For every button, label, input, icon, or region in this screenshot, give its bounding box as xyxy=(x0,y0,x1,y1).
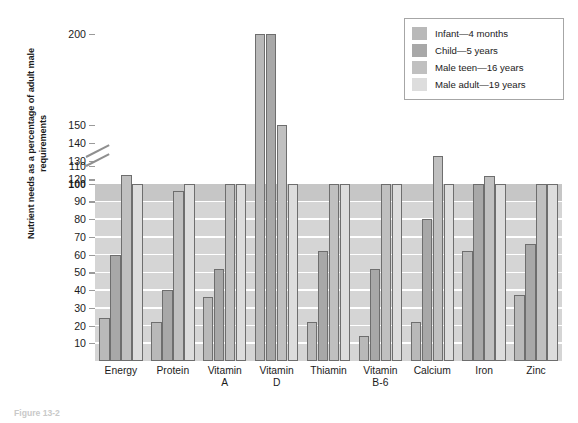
bar xyxy=(277,125,287,361)
bar xyxy=(255,34,265,361)
bar xyxy=(288,184,298,361)
x-axis-label-line: A xyxy=(199,377,251,389)
legend-item: Male teen—16 years xyxy=(412,59,556,76)
bar xyxy=(370,269,380,361)
legend-label: Male adult—19 years xyxy=(435,79,526,90)
x-axis-tick-label: VitaminD xyxy=(251,365,303,390)
bar xyxy=(214,269,224,361)
bar xyxy=(236,184,246,361)
bar xyxy=(318,251,328,361)
legend-label: Child—5 years xyxy=(435,45,498,56)
x-axis-label-line: Vitamin xyxy=(199,365,251,377)
bar xyxy=(525,244,535,361)
bar xyxy=(307,322,317,361)
legend-swatch xyxy=(412,27,427,40)
y-axis-tick-label: 70 xyxy=(74,232,86,243)
x-axis-label-line: D xyxy=(251,377,303,389)
chart-legend: Infant—4 monthsChild—5 yearsMale teen—16… xyxy=(404,18,564,100)
chart-figure: Nutrient needs as a percentage of adult … xyxy=(0,0,578,423)
x-axis-tick-label: VitaminB-6 xyxy=(354,365,406,390)
y-axis-tick-label: 150 xyxy=(68,120,86,131)
bar xyxy=(173,191,183,361)
bar xyxy=(203,297,213,361)
bar xyxy=(462,251,472,361)
bar xyxy=(329,184,339,361)
x-axis-label-line: Vitamin xyxy=(251,365,303,377)
legend-item: Male adult—19 years xyxy=(412,76,556,93)
bar xyxy=(359,336,369,361)
bar xyxy=(536,184,546,361)
y-axis-tick-label: 90 xyxy=(74,196,86,207)
y-axis-title: Nutrient needs as a percentage of adult … xyxy=(26,31,49,257)
x-axis-tick-label: Thiamin xyxy=(303,365,355,377)
x-axis-label-line: Calcium xyxy=(406,365,458,377)
bar-group xyxy=(251,16,303,361)
legend-swatch xyxy=(412,61,427,74)
legend-item: Infant—4 months xyxy=(412,25,556,42)
bar-group xyxy=(147,16,199,361)
bar-group xyxy=(95,16,147,361)
y-axis-tick-label: 130 xyxy=(68,156,86,167)
bar xyxy=(184,184,194,361)
y-axis-tick-label: 200 xyxy=(68,29,86,40)
x-axis-tick-label: Iron xyxy=(458,365,510,377)
y-axis-tick-label: 140 xyxy=(68,138,86,149)
bar xyxy=(99,318,109,361)
bar xyxy=(514,295,524,361)
y-axis-tick-label: 30 xyxy=(74,303,86,314)
bar xyxy=(225,184,235,361)
bar xyxy=(132,184,142,361)
x-axis-tick-label: Zinc xyxy=(510,365,562,377)
bar xyxy=(266,34,276,361)
bar xyxy=(381,184,391,361)
bar xyxy=(473,184,483,361)
bar-group xyxy=(303,16,355,361)
bar xyxy=(444,184,454,361)
y-axis-tick-label: 20 xyxy=(74,320,86,331)
y-axis-tick-label: 120 xyxy=(68,174,86,185)
x-axis-label-line: Vitamin xyxy=(354,365,406,377)
bar xyxy=(392,184,402,361)
bar xyxy=(433,156,443,361)
x-axis-tick-label: VitaminA xyxy=(199,365,251,390)
x-axis-label-line: Protein xyxy=(147,365,199,377)
bar-group xyxy=(354,16,406,361)
x-axis-tick-label: Energy xyxy=(95,365,147,377)
legend-item: Child—5 years xyxy=(412,42,556,59)
bar xyxy=(162,290,172,361)
x-axis-tick-label: Calcium xyxy=(406,365,458,377)
x-axis-label-line: B-6 xyxy=(354,377,406,389)
y-axis-tick-label: 80 xyxy=(74,214,86,225)
x-axis-label-line: Thiamin xyxy=(303,365,355,377)
bar xyxy=(484,176,494,361)
y-axis-tick-label: 60 xyxy=(74,249,86,260)
x-axis-label-line: Zinc xyxy=(510,365,562,377)
y-axis-tick-label: 50 xyxy=(74,267,86,278)
x-axis-label-line: Iron xyxy=(458,365,510,377)
figure-caption: Figure 13-2 xyxy=(14,408,60,418)
y-axis-tick-label: 10 xyxy=(74,338,86,349)
legend-label: Male teen—16 years xyxy=(435,62,524,73)
legend-swatch xyxy=(412,78,427,91)
x-axis-label-line: Energy xyxy=(95,365,147,377)
bar xyxy=(495,184,505,361)
bar xyxy=(411,322,421,361)
bar xyxy=(151,322,161,361)
bar xyxy=(121,175,131,361)
bar xyxy=(422,219,432,361)
bar xyxy=(110,255,120,361)
bar xyxy=(547,184,557,361)
x-axis-tick-label: Protein xyxy=(147,365,199,377)
bar-group xyxy=(199,16,251,361)
legend-swatch xyxy=(412,44,427,57)
y-axis-tick-label: 40 xyxy=(74,285,86,296)
legend-label: Infant—4 months xyxy=(435,28,508,39)
bar xyxy=(340,184,350,361)
